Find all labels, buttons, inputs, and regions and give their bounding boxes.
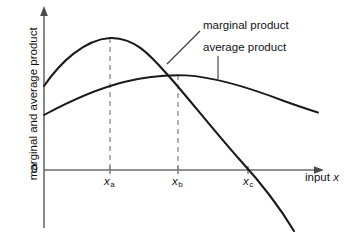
tick-label-xa-base: x xyxy=(104,175,110,187)
tick-label-xa-sub: a xyxy=(110,180,114,189)
x-axis-label-prefix: input xyxy=(305,171,333,183)
average-product-curve xyxy=(44,75,318,115)
x-axis-label: input x xyxy=(305,172,339,184)
marginal-product-curve xyxy=(44,38,294,231)
plot-canvas xyxy=(0,0,354,236)
marginal-product-label: marginal product xyxy=(203,20,289,32)
marginal-average-product-figure: marginal product average product 0 input… xyxy=(0,0,354,236)
y-axis-label: marginal and average product xyxy=(28,19,40,189)
marginal-product-leader-line xyxy=(167,31,200,64)
tick-label-xb-base: x xyxy=(172,175,178,187)
tick-label-xc-base: x xyxy=(243,175,249,187)
y-axis-arrowhead xyxy=(40,6,48,16)
average-product-label: average product xyxy=(203,42,286,54)
x-axis-label-variable: x xyxy=(333,171,339,183)
tick-label-xc: xc xyxy=(243,175,253,187)
tick-label-xa: xa xyxy=(104,175,114,187)
tick-label-xb-sub: b xyxy=(178,180,182,189)
tick-label-xb: xb xyxy=(172,175,182,187)
tick-label-xc-sub: c xyxy=(249,180,253,189)
